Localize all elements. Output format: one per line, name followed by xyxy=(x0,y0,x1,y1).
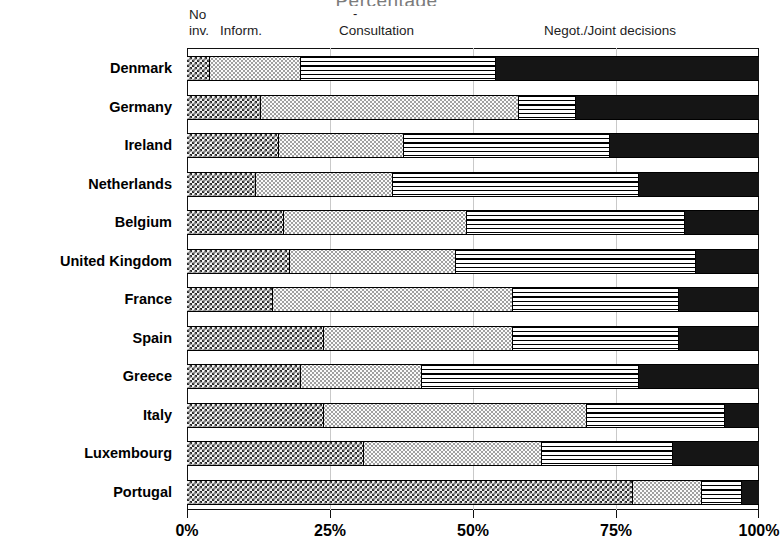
bar-segment-fine-dots-light xyxy=(301,365,421,388)
category-axis-labels: DenmarkGermanyIrelandNetherlandsBelgiumU… xyxy=(0,48,182,510)
axis-tick xyxy=(616,510,617,518)
category-label: United Kingdom xyxy=(0,249,172,274)
category-label: Spain xyxy=(0,326,172,351)
bar-segment-solid-black xyxy=(679,327,759,350)
bar-segment-checkerboard-dark xyxy=(187,442,364,465)
legend-dash-mark: - xyxy=(353,7,357,21)
axis-tick-label: 50% xyxy=(443,522,503,540)
bar-segment-fine-dots-light xyxy=(256,173,393,196)
plot-area xyxy=(187,48,759,510)
bar-row xyxy=(187,403,759,428)
category-label: Greece xyxy=(0,364,172,389)
category-label: Germany xyxy=(0,95,172,120)
category-label: Italy xyxy=(0,403,172,428)
bar-segment-horizontal-lines xyxy=(542,442,674,465)
bar-segment-solid-black xyxy=(673,442,759,465)
bar-segment-checkerboard-dark xyxy=(187,173,256,196)
legend-label-inv: inv. xyxy=(189,24,209,38)
bar-segment-checkerboard-dark xyxy=(187,327,324,350)
legend-label-negotiation: Negot./Joint decisions xyxy=(544,24,676,38)
bar-segment-solid-black xyxy=(742,481,759,504)
bar-segment-horizontal-lines xyxy=(301,57,495,80)
bar-row xyxy=(187,56,759,81)
bar-segment-checkerboard-dark xyxy=(187,365,301,388)
bar-segment-fine-dots-light xyxy=(324,404,587,427)
bar-row xyxy=(187,441,759,466)
bar-segment-horizontal-lines xyxy=(587,404,724,427)
bar-segment-horizontal-lines xyxy=(513,288,679,311)
bar-segment-fine-dots-light xyxy=(273,288,513,311)
bar-segment-solid-black xyxy=(679,288,759,311)
bar-segment-fine-dots-light xyxy=(633,481,702,504)
axis-tick-label: 0% xyxy=(157,522,217,540)
bar-segment-horizontal-lines xyxy=(702,481,742,504)
bar-segment-fine-dots-light xyxy=(324,327,513,350)
bar-row xyxy=(187,480,759,505)
axis-tick xyxy=(758,510,759,518)
bar-segment-checkerboard-dark xyxy=(187,96,261,119)
bar-segment-checkerboard-dark xyxy=(187,481,633,504)
bar-segment-solid-black xyxy=(696,250,759,273)
bar-segment-fine-dots-light xyxy=(284,211,467,234)
bar-segment-horizontal-lines xyxy=(513,327,679,350)
bar-row xyxy=(187,364,759,389)
axis-tick-label: 100% xyxy=(729,522,784,540)
bar-segment-fine-dots-light xyxy=(261,96,518,119)
bar-segment-horizontal-lines xyxy=(393,173,639,196)
bar-segment-horizontal-lines xyxy=(422,365,639,388)
bar-segment-solid-black xyxy=(639,365,759,388)
bar-segment-solid-black xyxy=(576,96,759,119)
bar-segment-solid-black xyxy=(496,57,759,80)
category-label: Luxembourg xyxy=(0,441,172,466)
category-label: Belgium xyxy=(0,210,172,235)
bar-segment-checkerboard-dark xyxy=(187,134,279,157)
bar-segment-solid-black xyxy=(725,404,759,427)
axis-tick xyxy=(473,510,474,518)
category-label: Netherlands xyxy=(0,172,172,197)
legend-label-consultation: Consultation xyxy=(339,24,414,38)
chart-legend: No inv. Inform. - Consultation Negot./Jo… xyxy=(187,6,759,48)
bar-segment-checkerboard-dark xyxy=(187,288,273,311)
bar-row xyxy=(187,172,759,197)
axis-tick-label: 25% xyxy=(300,522,360,540)
value-axis: 0%25%50%75%100% xyxy=(187,510,759,550)
category-label: Denmark xyxy=(0,56,172,81)
category-label: Ireland xyxy=(0,133,172,158)
bar-segment-checkerboard-dark xyxy=(187,404,324,427)
bar-segment-fine-dots-light xyxy=(279,134,405,157)
bar-segment-horizontal-lines xyxy=(519,96,576,119)
bar-row xyxy=(187,249,759,274)
bar-segment-solid-black xyxy=(639,173,759,196)
bar-segment-horizontal-lines xyxy=(456,250,696,273)
bar-row xyxy=(187,287,759,312)
bar-segment-solid-black xyxy=(610,134,759,157)
bar-segment-checkerboard-dark xyxy=(187,250,290,273)
category-label: France xyxy=(0,287,172,312)
bar-segment-fine-dots-light xyxy=(364,442,541,465)
axis-tick xyxy=(330,510,331,518)
bar-segment-checkerboard-dark xyxy=(187,211,284,234)
axis-tick xyxy=(187,510,188,518)
legend-label-inform: Inform. xyxy=(220,24,262,38)
bar-row xyxy=(187,326,759,351)
bar-segment-horizontal-lines xyxy=(467,211,684,234)
bar-row xyxy=(187,133,759,158)
legend-label-no: No xyxy=(189,8,206,22)
bar-row xyxy=(187,210,759,235)
bar-segment-fine-dots-light xyxy=(290,250,456,273)
bar-row xyxy=(187,95,759,120)
bar-segment-checkerboard-dark xyxy=(187,57,210,80)
bar-segment-solid-black xyxy=(685,211,759,234)
category-label: Portugal xyxy=(0,480,172,505)
bar-segment-horizontal-lines xyxy=(404,134,610,157)
axis-tick-label: 75% xyxy=(586,522,646,540)
bar-segment-fine-dots-light xyxy=(210,57,302,80)
bar-rows xyxy=(187,48,759,510)
